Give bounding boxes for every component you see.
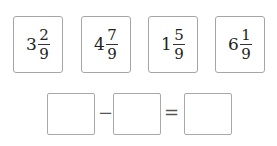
fraction: 7 9 [106,27,118,62]
fraction: 5 9 [173,27,185,62]
answer-box-subtrahend[interactable] [113,93,161,135]
denominator: 9 [174,46,184,62]
mixed-number: 1 5 9 [161,27,185,62]
mixed-number: 6 1 9 [228,27,252,62]
answer-box-result[interactable] [184,93,232,135]
denominator: 9 [39,46,49,62]
answer-box-minuend[interactable] [47,93,95,135]
number-card-3[interactable]: 1 5 9 [148,16,198,73]
whole-part: 3 [26,36,37,53]
number-card-4[interactable]: 6 1 9 [215,16,265,73]
denominator: 9 [241,46,251,62]
numerator: 7 [107,27,117,43]
numerator: 5 [174,27,184,43]
numerator: 1 [241,27,251,43]
whole-part: 1 [161,36,172,53]
numerator: 2 [39,27,49,43]
number-card-1[interactable]: 3 2 9 [13,16,63,73]
whole-part: 6 [228,36,239,53]
equals-sign: = [164,104,179,122]
fraction: 1 9 [240,27,252,62]
mixed-number: 4 7 9 [94,27,118,62]
denominator: 9 [107,46,117,62]
whole-part: 4 [94,36,105,53]
mixed-number: 3 2 9 [26,27,50,62]
minus-sign: − [98,104,113,122]
fraction: 2 9 [38,27,50,62]
number-card-2[interactable]: 4 7 9 [81,16,131,73]
